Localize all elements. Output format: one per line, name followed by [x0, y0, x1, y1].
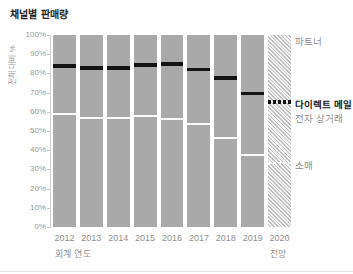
direct-mail-band — [214, 76, 237, 80]
x-tick-label: 2012 — [53, 233, 76, 243]
retail-ecommerce-divider — [80, 117, 103, 119]
forecast-caption: 전망 — [252, 247, 304, 260]
bar-2018 — [214, 35, 237, 227]
x-tick-label: 2019 — [241, 233, 264, 243]
x-axis-ticks: 201220132014201520162017201820192020 — [53, 233, 291, 243]
legend-item-ecommerce: 전자 상거래 — [295, 111, 343, 125]
y-tick-mark — [47, 112, 50, 113]
y-tick-label: 20% — [14, 184, 46, 194]
bar-2016 — [161, 35, 184, 227]
bar-2014 — [107, 35, 130, 227]
y-tick-label: 70% — [14, 88, 46, 98]
x-tick-label: 2016 — [161, 233, 184, 243]
y-tick-mark — [47, 73, 50, 74]
y-tick-label: 10% — [14, 203, 46, 213]
direct-mail-band — [80, 66, 103, 70]
x-tick-label: 2020 — [268, 233, 291, 243]
retail-ecommerce-divider — [161, 118, 184, 120]
y-tick-label: 30% — [14, 164, 46, 174]
y-tick-label: 100% — [14, 30, 46, 40]
bar-2015 — [134, 35, 157, 227]
chart-title: 채널별 판매량 — [10, 6, 68, 21]
x-axis-title: 회계 연도 — [55, 247, 91, 260]
y-tick-label: 90% — [14, 49, 46, 59]
legend-item-partner: 파트너 — [295, 34, 322, 48]
y-tick-label: 40% — [14, 145, 46, 155]
y-tick-mark — [47, 189, 50, 190]
direct-mail-band — [53, 64, 76, 68]
direct-mail-band — [241, 92, 264, 96]
x-tick-label: 2015 — [134, 233, 157, 243]
x-tick-label: 2014 — [107, 233, 130, 243]
y-tick-mark — [47, 150, 50, 151]
bar-2013 — [80, 35, 103, 227]
retail-ecommerce-divider — [187, 123, 210, 125]
legend-item-direct-mail: 다이렉트 메일 — [295, 97, 352, 111]
retail-ecommerce-divider — [134, 115, 157, 117]
x-tick-label: 2013 — [80, 233, 103, 243]
y-tick-mark — [47, 35, 50, 36]
retail-ecommerce-divider — [214, 137, 237, 139]
legend-item-retail: 소매 — [295, 158, 313, 172]
direct-mail-band — [134, 63, 157, 67]
x-tick-label: 2018 — [214, 233, 237, 243]
chart-window: 채널별 판매량 전체 대비 % 100%90%80%70%60%50%40%30… — [0, 0, 353, 274]
retail-ecommerce-divider — [268, 162, 291, 164]
y-axis-line — [50, 35, 51, 228]
y-tick-label: 0% — [14, 222, 46, 232]
direct-mail-band — [161, 62, 184, 66]
window-bottom-border — [0, 271, 353, 272]
y-tick-mark — [47, 93, 50, 94]
y-tick-mark — [47, 54, 50, 55]
bar-2017 — [187, 35, 210, 227]
x-tick-label: 2017 — [187, 233, 210, 243]
direct-mail-band — [187, 68, 210, 72]
y-tick-mark — [47, 169, 50, 170]
y-tick-mark — [47, 131, 50, 132]
bar-2012 — [53, 35, 76, 227]
direct-mail-band — [107, 66, 130, 70]
y-tick-mark — [47, 227, 50, 228]
retail-ecommerce-divider — [53, 113, 76, 115]
retail-ecommerce-divider — [241, 154, 264, 156]
y-tick-label: 50% — [14, 126, 46, 136]
bar-2020-forecast — [268, 35, 291, 227]
bar-2019 — [241, 35, 264, 227]
direct-mail-band — [268, 100, 291, 104]
y-tick-mark — [47, 208, 50, 209]
retail-ecommerce-divider — [107, 117, 130, 119]
plot-area — [53, 35, 291, 227]
y-tick-label: 80% — [14, 68, 46, 78]
y-tick-label: 60% — [14, 107, 46, 117]
